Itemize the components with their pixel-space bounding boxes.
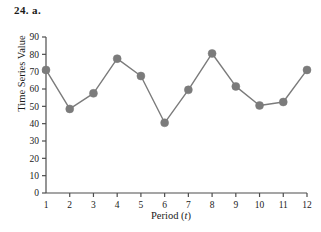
x-tick-label: 1: [44, 200, 49, 210]
series-line: [46, 53, 307, 122]
y-tick-label: 80: [30, 50, 40, 60]
y-tick-label: 60: [30, 84, 40, 94]
x-axis-ticks: 123456789101112: [44, 193, 312, 210]
x-tick-label: 9: [233, 200, 238, 210]
x-tick-label: 7: [186, 200, 191, 210]
data-point-marker: [184, 86, 192, 94]
data-point-marker: [66, 105, 74, 113]
data-point-marker: [137, 72, 145, 80]
x-tick-label: 3: [91, 200, 96, 210]
y-axis-title: Time Series Value: [16, 14, 27, 134]
x-axis-title-close: ): [187, 210, 191, 221]
data-point-marker: [89, 89, 97, 97]
x-tick-label: 5: [139, 200, 144, 210]
x-tick-label: 4: [115, 200, 120, 210]
x-tick-label: 6: [162, 200, 167, 210]
y-tick-label: 20: [30, 154, 40, 164]
line-chart-plot: 0102030405060708090 123456789101112: [0, 0, 321, 232]
data-point-marker: [161, 119, 169, 127]
data-point-marker: [208, 49, 216, 57]
series-markers: [42, 49, 311, 126]
chart-axes: [46, 37, 307, 193]
data-point-marker: [303, 66, 311, 74]
x-tick-label: 8: [210, 200, 215, 210]
x-tick-label: 2: [67, 200, 72, 210]
x-axis-title-text: Period (: [151, 210, 185, 221]
y-tick-label: 30: [30, 136, 40, 146]
y-tick-label: 50: [30, 102, 40, 112]
data-point-marker: [113, 55, 121, 63]
y-tick-label: 70: [30, 67, 40, 77]
y-tick-label: 10: [30, 171, 40, 181]
y-tick-label: 0: [34, 188, 39, 198]
y-tick-label: 40: [30, 119, 40, 129]
data-point-marker: [256, 101, 264, 109]
x-axis-title: Period (t): [36, 210, 306, 221]
data-point-marker: [42, 66, 50, 74]
figure-container: 24. a. Time Series Value Period (t) 0102…: [0, 0, 321, 232]
data-point-marker: [232, 82, 240, 90]
x-tick-label: 12: [302, 200, 312, 210]
series-path: [46, 53, 307, 122]
y-axis-ticks: 0102030405060708090: [30, 32, 47, 198]
x-tick-label: 10: [255, 200, 265, 210]
data-point-marker: [279, 98, 287, 106]
y-tick-label: 90: [30, 32, 40, 42]
x-tick-label: 11: [279, 200, 288, 210]
